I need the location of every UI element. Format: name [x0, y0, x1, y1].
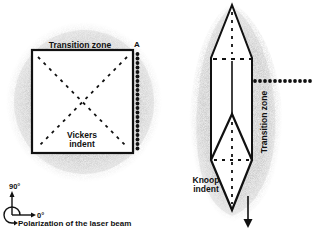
knoop-transition-zone-label: Transition zone — [259, 91, 269, 154]
indent-diagram: Transition zone A Vickers indent Transit… — [0, 0, 320, 234]
vickers-transition-zone-label: Transition zone — [49, 40, 112, 50]
knoop-indent-label-line2: indent — [193, 184, 219, 194]
angle-90-label: 90° — [9, 182, 20, 191]
point-a-label: A — [134, 40, 140, 49]
vickers-indent-label-line2: indent — [69, 139, 95, 149]
polarization-caption: Polarization of the laser beam — [18, 219, 131, 228]
